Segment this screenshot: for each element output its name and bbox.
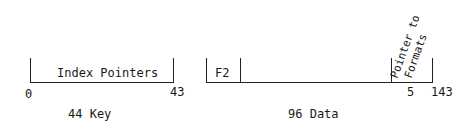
key-caption: 44 Key: [68, 108, 111, 120]
key-right-tick: [173, 58, 174, 83]
f2-right-divider: [240, 58, 241, 82]
data-caption: 96 Data: [288, 108, 339, 120]
data-end-offset: 143: [431, 86, 453, 98]
f2-label: F2: [215, 67, 229, 79]
data-right-tick: [432, 58, 433, 83]
key-end-offset: 43: [170, 86, 184, 98]
pointer-size: 5: [407, 86, 414, 98]
key-start-offset: 0: [25, 88, 32, 100]
key-baseline: [30, 82, 173, 83]
index-pointers-label: Index Pointers: [57, 67, 158, 79]
key-left-tick: [30, 58, 31, 82]
data-baseline: [206, 82, 432, 83]
data-left-tick: [206, 58, 207, 82]
